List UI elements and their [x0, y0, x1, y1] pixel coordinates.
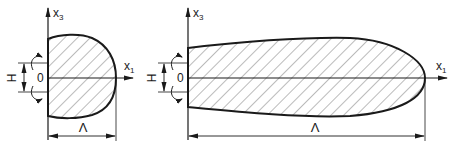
origin-label: 0: [37, 71, 44, 85]
height-label: H: [145, 74, 159, 83]
diagram-svg: x3 x1 0 H Λ x3 x1 0 H: [0, 0, 453, 150]
vortex-bottom-icon: [31, 86, 42, 100]
x3-axis-label: x3: [193, 6, 204, 22]
height-label: H: [5, 74, 19, 83]
origin-label: 0: [177, 71, 184, 85]
body-section-shape: [48, 35, 116, 118]
vortex-bottom-icon: [171, 86, 182, 100]
x1-axis-label: x1: [436, 59, 447, 75]
diagram-canvas: x3 x1 0 H Λ x3 x1 0 H: [0, 0, 453, 150]
figure-long-body: x3 x1 0 H Λ: [145, 6, 447, 141]
figure-short-body: x3 x1 0 H Λ: [5, 6, 135, 141]
x3-axis-label: x3: [53, 6, 64, 22]
length-label: Λ: [79, 120, 88, 135]
length-label: Λ: [311, 120, 320, 135]
x1-axis-label: x1: [124, 59, 135, 75]
body-section-shape: [188, 38, 425, 117]
